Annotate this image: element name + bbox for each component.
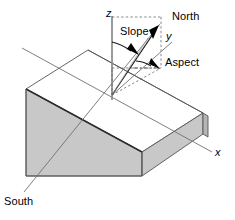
label-axis-z: z: [106, 8, 112, 19]
label-axis-x: x: [215, 147, 221, 158]
label-axis-y: y: [166, 31, 172, 42]
label-aspect: Aspect: [165, 57, 199, 68]
slope-angle-arc: [112, 42, 139, 55]
label-north: North: [172, 11, 199, 22]
slope-arc-arrowhead: [127, 43, 139, 55]
inclined-wedge-block: [26, 50, 208, 176]
label-south: South: [4, 196, 33, 207]
aspect-arc-path: [136, 61, 151, 66]
slope-arc-path: [112, 42, 131, 51]
aspect-arc-arrowhead: [149, 58, 160, 69]
diagram-canvas: [0, 0, 235, 220]
slope-aspect-diagram: North South Slope Aspect z y x: [0, 0, 235, 220]
label-slope: Slope: [120, 26, 149, 37]
right-thin-edge: [203, 113, 208, 137]
